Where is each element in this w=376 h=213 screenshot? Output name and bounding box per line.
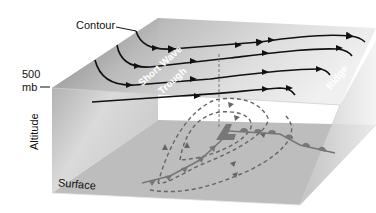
500mb-value-label: 500 [22,68,40,80]
500mb-unit-label: mb [22,81,37,93]
altitude-label: Altitude [28,113,40,150]
block-diagram [0,0,376,213]
contour-leader [116,27,136,31]
contour-label: Contour [76,19,115,31]
